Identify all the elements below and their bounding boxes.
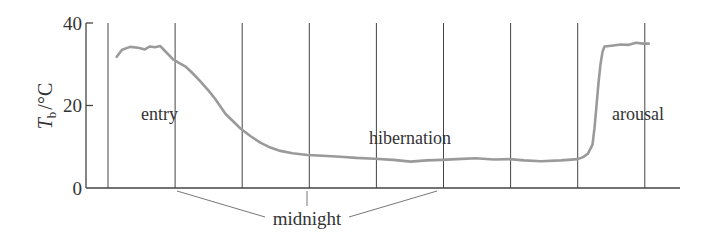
y-tick-label-40: 40 — [63, 13, 82, 34]
y-label-unit: /°C — [34, 83, 56, 110]
y-tick-label-0: 0 — [73, 178, 83, 199]
vertical-grid-lines — [108, 23, 645, 188]
hibernation-temperature-chart: 40 20 0 Tb/°C entry hibernation arousal … — [0, 0, 707, 240]
annotation-midnight: midnight — [273, 208, 342, 229]
midnight-pointer-right — [349, 191, 437, 217]
y-tick-label-20: 20 — [63, 95, 82, 116]
y-label-subscript: b — [44, 112, 59, 119]
midnight-pointer-left — [177, 191, 265, 217]
y-axis-label: Tb/°C — [34, 83, 59, 130]
annotation-hibernation: hibernation — [369, 128, 451, 148]
annotation-arousal: arousal — [612, 104, 664, 124]
annotation-entry: entry — [141, 104, 178, 124]
